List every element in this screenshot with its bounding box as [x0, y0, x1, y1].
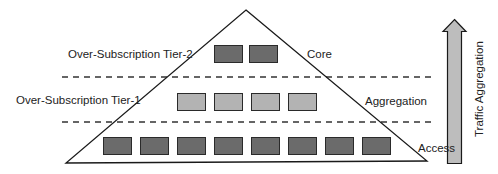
access-layer-label: Access — [418, 143, 455, 155]
access-switch — [363, 138, 391, 155]
access-switches — [104, 138, 391, 155]
aggregation-switches — [178, 94, 317, 111]
core-switches — [215, 46, 278, 63]
core-switch — [250, 46, 278, 63]
tier-1-label: Over-Subscription Tier-1 — [16, 95, 141, 107]
core-switch — [215, 46, 243, 63]
aggregation-layer-label: Aggregation — [365, 96, 427, 108]
aggregation-switch — [178, 94, 206, 111]
core-layer-label: Core — [307, 49, 332, 61]
access-switch — [215, 138, 243, 155]
access-switch — [141, 138, 169, 155]
aggregation-switch — [252, 94, 280, 111]
access-switch — [252, 138, 280, 155]
aggregation-switch — [215, 94, 243, 111]
tier-2-label: Over-Subscription Tier-2 — [68, 49, 193, 61]
access-switch — [289, 138, 317, 155]
access-switch — [178, 138, 206, 155]
access-switch — [104, 138, 132, 155]
access-switch — [326, 138, 354, 155]
traffic-aggregation-label: Traffic Aggregation — [474, 41, 486, 137]
aggregation-switch — [289, 94, 317, 111]
